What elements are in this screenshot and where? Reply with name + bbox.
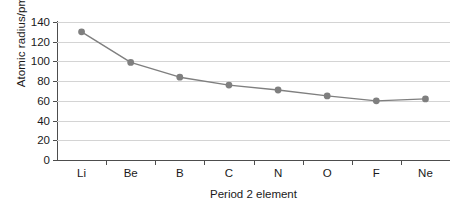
y-tick-mark: [53, 140, 57, 141]
gridline: [57, 42, 450, 43]
x-tick-label-ne: Ne: [402, 167, 448, 179]
gridline: [57, 61, 450, 62]
y-tick-label: 80: [20, 75, 50, 87]
x-tick-label-be: Be: [108, 167, 154, 179]
x-tick-mark: [401, 161, 402, 165]
chart-figure: Atomic radius/pm Period 2 element 020406…: [0, 0, 462, 211]
x-axis-title: Period 2 element: [57, 188, 450, 200]
x-tick-mark: [204, 161, 205, 165]
y-tick-label: 0: [20, 154, 50, 166]
x-tick-mark: [106, 161, 107, 165]
y-tick-mark: [53, 22, 57, 23]
gridline: [57, 101, 450, 102]
y-tick-mark: [53, 61, 57, 62]
y-tick-label: 40: [20, 115, 50, 127]
y-tick-mark: [53, 42, 57, 43]
gridline: [57, 140, 450, 141]
gridline: [57, 81, 450, 82]
x-tick-mark: [352, 161, 353, 165]
x-tick-label-f: F: [353, 167, 399, 179]
y-tick-mark: [53, 101, 57, 102]
x-tick-mark: [155, 161, 156, 165]
y-tick-mark: [53, 160, 57, 161]
gridline: [57, 22, 450, 23]
x-tick-mark: [303, 161, 304, 165]
x-tick-label-b: B: [157, 167, 203, 179]
y-tick-label: 140: [20, 16, 50, 28]
x-tick-label-o: O: [304, 167, 350, 179]
plot-area: [57, 22, 450, 160]
x-tick-label-c: C: [206, 167, 252, 179]
x-tick-label-n: N: [255, 167, 301, 179]
y-tick-label: 60: [20, 95, 50, 107]
x-tick-label-li: Li: [59, 167, 105, 179]
y-tick-label: 100: [20, 55, 50, 67]
x-tick-mark: [254, 161, 255, 165]
y-tick-mark: [53, 81, 57, 82]
y-tick-mark: [53, 121, 57, 122]
y-tick-label: 120: [20, 36, 50, 48]
gridline: [57, 121, 450, 122]
y-tick-label: 20: [20, 134, 50, 146]
